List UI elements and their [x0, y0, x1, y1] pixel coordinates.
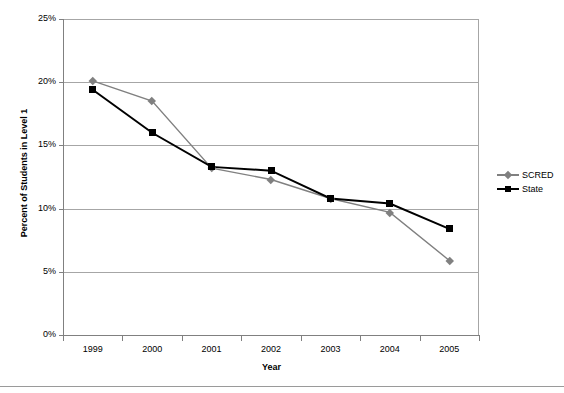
x-tick-label: 2000: [122, 344, 182, 354]
diamond-marker-icon: [504, 171, 512, 179]
legend-label-scred: SCRED: [522, 170, 554, 180]
data-point-state-2003: [327, 195, 334, 202]
legend-swatch-scred: [497, 170, 519, 180]
y-axis-title: Percent of Students in Level 1: [19, 73, 29, 273]
x-axis-line: [63, 335, 480, 336]
plot-area: [63, 19, 479, 335]
series-line-state: [93, 90, 450, 229]
x-tick-mark: [122, 336, 123, 341]
x-tick-mark: [360, 336, 361, 341]
x-tick-mark: [420, 336, 421, 341]
y-tick-mark: [59, 82, 63, 83]
x-tick-label: 2001: [182, 344, 242, 354]
x-tick-mark: [63, 336, 64, 341]
x-tick-label: 2002: [241, 344, 301, 354]
y-tick-mark: [59, 209, 63, 210]
data-point-state-2002: [268, 167, 275, 174]
y-tick-mark: [59, 272, 63, 273]
x-tick-label: 2003: [300, 344, 360, 354]
data-point-state-2001: [208, 163, 215, 170]
page-bottom-rule: [0, 386, 564, 387]
data-point-state-2000: [149, 129, 156, 136]
x-tick-label: 1999: [63, 344, 123, 354]
chart-container: 0%5%10%15%20%25% 19992000200120022003200…: [0, 0, 564, 393]
x-tick-mark: [301, 336, 302, 341]
y-tick-label: 25%: [14, 14, 56, 23]
data-point-state-1999: [89, 86, 96, 93]
x-tick-label: 2005: [419, 344, 479, 354]
legend-item-state: State: [497, 182, 554, 196]
legend-swatch-state: [497, 184, 519, 194]
legend-item-scred: SCRED: [497, 168, 554, 182]
data-point-state-2005: [446, 225, 453, 232]
y-tick-mark: [59, 19, 63, 20]
square-marker-icon: [505, 186, 511, 192]
data-point-state-2004: [386, 200, 393, 207]
y-axis-line: [63, 19, 64, 336]
y-tick-label: 0%: [14, 330, 56, 339]
x-axis-title: Year: [63, 362, 480, 372]
x-tick-mark: [241, 336, 242, 341]
legend-label-state: State: [522, 184, 543, 194]
x-tick-label: 2004: [360, 344, 420, 354]
y-tick-mark: [59, 145, 63, 146]
x-tick-mark: [182, 336, 183, 341]
x-tick-mark: [479, 336, 480, 341]
chart-legend: SCRED State: [497, 168, 554, 196]
